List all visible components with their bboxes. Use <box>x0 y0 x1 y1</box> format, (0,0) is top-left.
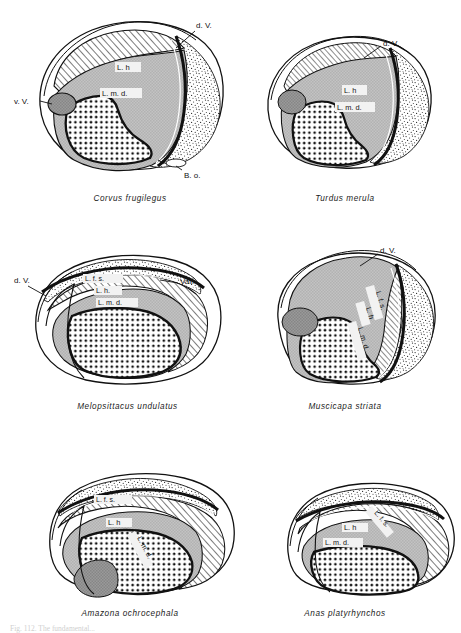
dotgrid-lmd <box>68 308 181 378</box>
label-l-h: L. h <box>344 86 356 95</box>
panel-turdus-merula: L. h L. m. d. d. V. <box>268 36 431 168</box>
ventral-bulb <box>278 90 306 114</box>
label-d-v: d. V. <box>196 21 212 30</box>
plate-caption: Fig. 112. The fundamental... <box>10 624 95 633</box>
label-d-v: d. V. <box>14 276 30 285</box>
label-l-m-d: L. m. d. <box>98 298 122 307</box>
species-caption-turdus: Turdus merula <box>245 194 445 203</box>
species-caption-muscicapa: Muscicapa striata <box>245 402 445 411</box>
label-l-h: L. h <box>108 518 120 527</box>
label-d-v: d. V. <box>383 39 399 48</box>
ventral-bulb <box>282 308 318 336</box>
panel-anas-platyrhynchos: L. f. s. L. h L. m. d. <box>288 483 455 594</box>
species-caption-amazona: Amazona ochrocephala <box>20 609 240 618</box>
label-l-f-s: L. f. s. <box>85 275 104 282</box>
label-v-v: v. V. <box>14 97 29 106</box>
species-caption-anas: Anas platyrhynchos <box>245 609 445 618</box>
label-l-m-d: L. m. d. <box>325 538 349 547</box>
label-vall: Vall. <box>180 277 195 286</box>
species-caption-corvus: Corvus frugilegus <box>20 194 240 203</box>
label-l-m-d: L. m. d. <box>102 89 127 98</box>
label-l-f-s: L. f. s. <box>96 496 115 503</box>
label-l-h: L. h <box>344 523 356 532</box>
panel-corvus-frugilegus: L. h L. m. d. d. V. v. V. B. o. <box>14 21 223 180</box>
label-d-v: d. V. <box>380 246 396 255</box>
panel-muscicapa-striata: L. f. s. L. h L. m. d. d. V. <box>278 246 435 384</box>
bo-bulb <box>166 159 186 167</box>
label-b-o: B. o. <box>184 171 200 180</box>
label-l-m-d: L. m. d. <box>337 103 362 112</box>
label-l-h: L. h. <box>96 286 110 295</box>
panel-melopsittacus-undulatus: L. f. s. L. h. L. m. d. d. V. Vall. <box>14 255 221 384</box>
label-l-h: L. h <box>117 63 130 72</box>
ventral-bulb <box>48 93 76 115</box>
species-caption-melopsittacus: Melopsittacus undulatus <box>15 402 240 411</box>
panel-amazona-ochrocephala: L. f. s. L. h L. m. d. <box>50 474 235 597</box>
